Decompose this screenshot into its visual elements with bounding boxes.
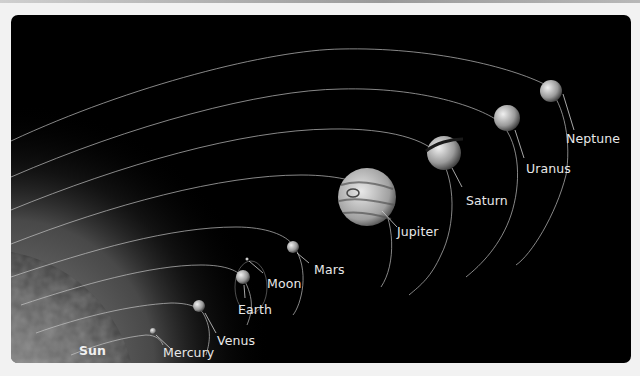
planet-uranus (494, 105, 520, 131)
solar-system-diagram: Sun Mercury Venus Earth Moon Mars Jupite… (11, 15, 631, 363)
diagram-canvas (11, 15, 631, 363)
label-saturn: Saturn (466, 193, 508, 208)
label-mars: Mars (314, 262, 345, 277)
label-earth: Earth (238, 302, 272, 317)
planet-venus (193, 300, 205, 312)
planet-mercury (150, 328, 156, 334)
top-strip (0, 0, 640, 3)
label-mercury: Mercury (163, 345, 214, 360)
planet-jupiter (338, 168, 396, 226)
label-uranus: Uranus (526, 161, 571, 176)
label-venus: Venus (217, 333, 255, 348)
label-moon: Moon (267, 276, 301, 291)
planet-mars (287, 241, 299, 253)
planet-earth (236, 270, 250, 284)
label-sun: Sun (79, 343, 106, 358)
label-jupiter: Jupiter (397, 224, 438, 239)
label-neptune: Neptune (566, 131, 620, 146)
planet-neptune (540, 80, 562, 102)
planet-moon (246, 258, 249, 261)
